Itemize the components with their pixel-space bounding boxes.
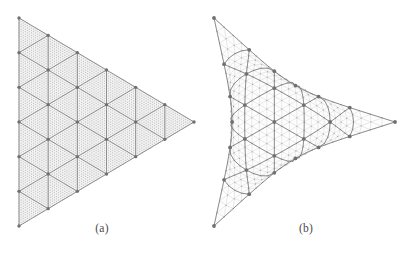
panel-b-caption: (b) — [204, 222, 408, 234]
figure-root: (a) (b) — [0, 0, 408, 258]
panel-a: (a) — [0, 0, 204, 258]
panel-b: (b) — [204, 0, 408, 258]
mesh-diagram-b — [204, 0, 408, 258]
mesh-diagram-a — [0, 0, 204, 258]
panel-a-caption: (a) — [0, 222, 204, 234]
